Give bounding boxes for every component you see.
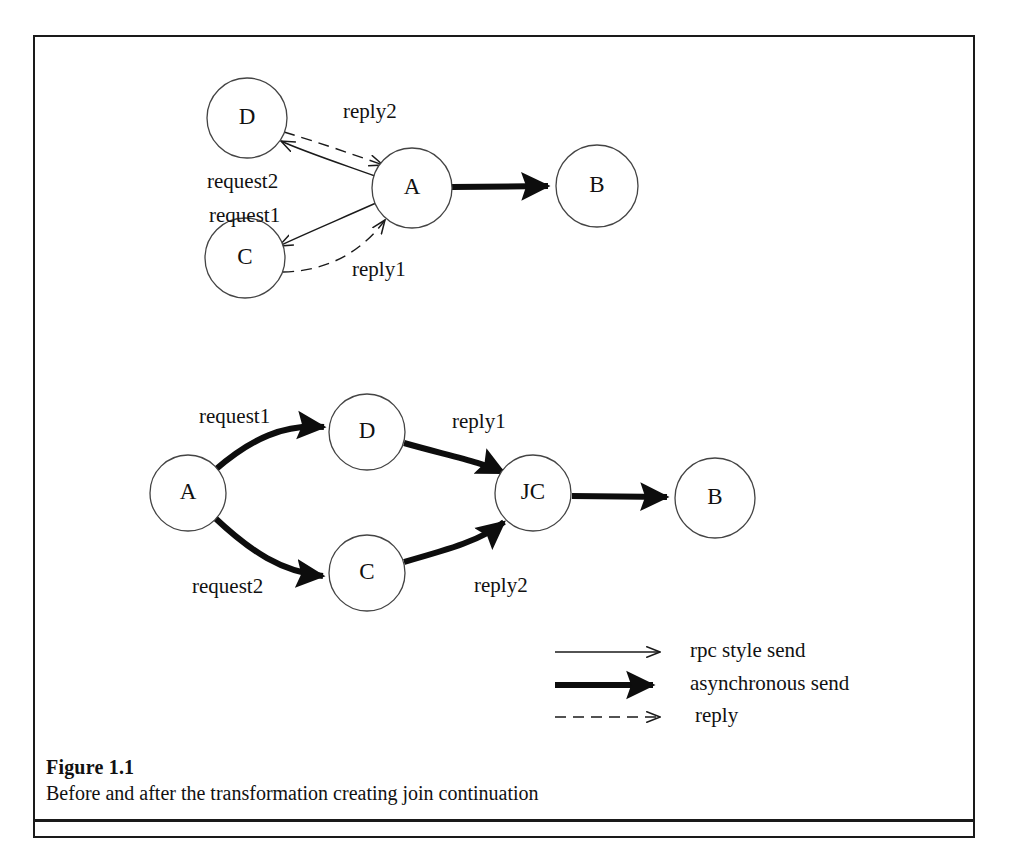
figure-caption: Figure 1.1 Before and after the transfor… (46, 756, 926, 805)
figure-page: D A C B reply2 request2 request1 reply1 (0, 0, 1009, 867)
figure-caption-title: Figure 1.1 (46, 756, 926, 779)
figure-caption-rule (35, 819, 973, 822)
figure-frame-border (33, 35, 975, 838)
figure-caption-text: Before and after the transformation crea… (46, 782, 926, 805)
